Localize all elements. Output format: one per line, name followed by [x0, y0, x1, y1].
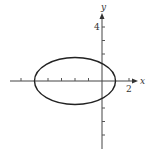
y-tick-label-4: 4	[94, 22, 100, 32]
graph-figure: y 4 x 2	[0, 0, 154, 152]
y-axis-arrow-icon	[100, 13, 105, 19]
x-axis-arrow-icon	[132, 79, 138, 84]
plot-canvas: y 4 x 2	[0, 0, 154, 152]
x-tick-label-2: 2	[126, 84, 132, 94]
y-axis-label: y	[100, 2, 107, 12]
x-axis-label: x	[140, 76, 145, 86]
